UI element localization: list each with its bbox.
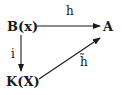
node-b-x: B(x)	[7, 19, 38, 34]
node-a: A	[102, 19, 114, 34]
commutative-diagram: B(x) A K(X) h i h̃	[0, 0, 122, 95]
label-h: h	[66, 4, 74, 18]
label-h-tilde: h̃	[80, 53, 88, 69]
label-i: i	[11, 47, 15, 61]
node-k-x: K(X)	[6, 74, 40, 89]
arrow-h-tilde	[39, 38, 100, 79]
